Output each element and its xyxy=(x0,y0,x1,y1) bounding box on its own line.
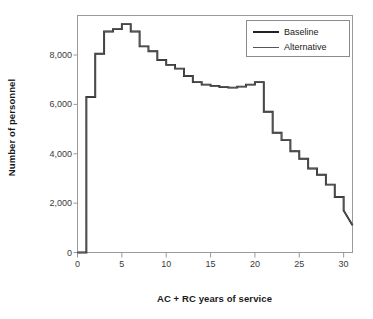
series-line-alternative xyxy=(78,24,353,252)
legend-label-alternative: Alternative xyxy=(284,42,327,52)
legend-item-baseline: Baseline xyxy=(253,25,319,39)
x-axis-tick-label: 20 xyxy=(250,259,260,269)
x-axis-tick-label: 30 xyxy=(339,259,349,269)
y-axis-tick-label: 2,000 xyxy=(34,198,72,208)
x-axis-tick-label: 15 xyxy=(206,259,216,269)
y-axis-tick-label: 4,000 xyxy=(34,149,72,159)
x-axis-tick-label: 25 xyxy=(294,259,304,269)
legend-swatch-alternative xyxy=(253,47,279,48)
x-axis-tick-label: 5 xyxy=(119,259,124,269)
y-axis-label: Number of personnel xyxy=(7,79,18,176)
y-axis-label-container: Number of personnel xyxy=(0,0,24,255)
series-line-baseline xyxy=(78,24,353,252)
chart-figure: Number of personnel AC + RC years of ser… xyxy=(0,0,373,319)
x-axis-tick-label: 0 xyxy=(75,259,80,269)
y-axis-tick-label: 0 xyxy=(34,248,72,258)
legend-swatch-baseline xyxy=(253,31,279,33)
x-axis-label-container: AC + RC years of service xyxy=(77,288,352,306)
y-axis-tick-label: 8,000 xyxy=(34,50,72,60)
legend-label-baseline: Baseline xyxy=(284,27,319,37)
legend-item-alternative: Alternative xyxy=(253,40,327,54)
y-axis-tick-label: 6,000 xyxy=(34,99,72,109)
x-axis-tick-label: 10 xyxy=(161,259,171,269)
chart-legend: Baseline Alternative xyxy=(246,20,350,57)
x-axis-label: AC + RC years of service xyxy=(157,293,272,304)
